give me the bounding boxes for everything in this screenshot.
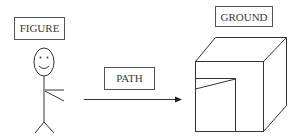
opening-diagonal	[196, 79, 236, 89]
figure-path-ground-diagram: FIGURE PATH GROUND	[0, 0, 300, 140]
ground-label: GROUND	[220, 11, 267, 23]
arrow-head-icon	[175, 97, 182, 103]
cube-top-right-edge	[264, 38, 287, 62]
cube-bottom-right-edge	[264, 106, 287, 132]
path-label: PATH	[116, 72, 143, 84]
left-leg-line	[35, 122, 44, 133]
right-eye-icon	[47, 57, 49, 59]
ground-label-box: GROUND	[216, 7, 273, 27]
smile-icon	[39, 66, 49, 69]
cube-front-face	[196, 62, 264, 132]
figure-label-box: FIGURE	[15, 18, 65, 40]
head-icon	[34, 48, 54, 76]
lower-arm-line	[45, 91, 64, 101]
ground-cube	[196, 38, 287, 132]
path-arrow	[84, 97, 182, 103]
right-leg-line	[44, 122, 54, 133]
path-label-box: PATH	[105, 68, 155, 90]
left-eye-icon	[40, 57, 42, 59]
cube-top-left-edge	[196, 38, 216, 62]
figure-label: FIGURE	[20, 22, 60, 34]
stick-figure	[34, 48, 64, 133]
